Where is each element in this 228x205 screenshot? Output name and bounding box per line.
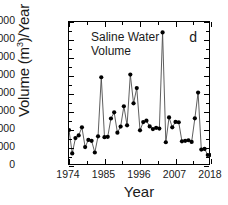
x-minor-tick-mark <box>158 161 159 164</box>
x-minor-tick-mark-top <box>87 22 88 25</box>
y-tick-mark-right <box>204 40 209 41</box>
y-tick-label: 40000 <box>0 87 15 97</box>
y-tick-label: 30000 <box>0 105 15 115</box>
y-tick-label: 60000 <box>0 51 15 61</box>
data-point-marker <box>70 151 74 155</box>
y-minor-tick-mark <box>69 103 72 104</box>
data-point-marker <box>119 124 123 128</box>
data-point-marker <box>109 116 113 120</box>
data-point-marker <box>93 150 97 154</box>
data-point-marker <box>193 116 197 120</box>
series-canvas <box>69 22 209 164</box>
y-minor-tick-mark-right <box>206 139 209 140</box>
y-tick-mark-right <box>204 130 209 131</box>
data-point-marker <box>135 86 139 90</box>
x-tick-label: 2007 <box>155 168 195 180</box>
data-point-marker <box>170 125 174 129</box>
y-tick-label: 50000 <box>0 69 15 79</box>
data-point-marker <box>148 124 152 128</box>
y-minor-tick-mark-right <box>206 157 209 158</box>
y-minor-tick-mark <box>69 121 72 122</box>
data-point-marker <box>115 131 119 135</box>
x-tick-label: 1985 <box>84 168 124 180</box>
data-point-marker <box>106 135 110 139</box>
x-axis-title: Year <box>68 183 210 200</box>
data-point-marker <box>157 126 161 130</box>
x-tick-label: 1974 <box>48 168 88 180</box>
y-tick-label: 10000 <box>0 141 15 151</box>
data-point-marker <box>164 140 168 144</box>
data-point-marker <box>167 115 171 119</box>
x-tick-mark <box>176 159 177 164</box>
x-tick-mark <box>69 159 70 164</box>
y-tick-mark <box>69 130 74 131</box>
y-axis-title-post: )/Year <box>15 4 32 42</box>
data-point-marker <box>177 120 181 124</box>
y-tick-mark-right <box>204 22 209 23</box>
y-tick-label: 0 <box>0 159 15 169</box>
y-minor-tick-mark <box>69 31 72 32</box>
data-point-marker <box>73 136 77 140</box>
y-minor-tick-mark <box>69 67 72 68</box>
data-point-marker <box>99 75 103 79</box>
x-tick-label: 1996 <box>119 168 159 180</box>
y-tick-mark <box>69 166 74 167</box>
x-tick-mark <box>105 159 106 164</box>
y-tick-mark <box>69 40 74 41</box>
y-minor-tick-mark <box>69 85 72 86</box>
y-tick-mark <box>69 58 74 59</box>
series-line <box>69 32 211 155</box>
data-point-marker <box>144 119 148 123</box>
x-minor-tick-mark <box>122 161 123 164</box>
y-axis-title: Volume (m3)/Year <box>15 0 32 136</box>
x-tick-mark-top <box>140 22 141 27</box>
series-svg <box>69 22 211 166</box>
x-tick-mark-top <box>69 22 70 27</box>
data-point-marker <box>80 125 84 129</box>
y-minor-tick-mark <box>69 49 72 50</box>
y-minor-tick-mark <box>69 139 72 140</box>
y-tick-mark-right <box>204 58 209 59</box>
y-minor-tick-mark-right <box>206 49 209 50</box>
y-minor-tick-mark <box>69 157 72 158</box>
data-point-marker <box>112 110 116 114</box>
x-tick-mark <box>140 159 141 164</box>
x-minor-tick-mark <box>87 161 88 164</box>
y-tick-mark <box>69 112 74 113</box>
x-tick-mark <box>211 159 212 164</box>
data-point-marker <box>138 128 142 132</box>
y-tick-label: 20000 <box>0 123 15 133</box>
data-point-marker <box>83 145 87 149</box>
data-point-marker <box>131 101 135 105</box>
data-point-marker <box>196 90 200 94</box>
data-point-marker <box>160 30 164 34</box>
x-tick-mark-top <box>176 22 177 27</box>
x-minor-tick-mark-top <box>122 22 123 25</box>
x-tick-mark-top <box>105 22 106 27</box>
data-point-marker <box>89 139 93 143</box>
y-tick-mark-right <box>204 76 209 77</box>
data-point-marker <box>96 134 100 138</box>
y-minor-tick-mark-right <box>206 31 209 32</box>
y-tick-mark <box>69 94 74 95</box>
y-minor-tick-mark-right <box>206 121 209 122</box>
y-tick-mark <box>69 76 74 77</box>
y-tick-mark-right <box>204 112 209 113</box>
y-tick-mark-right <box>204 148 209 149</box>
plot-area: Saline Water Volume d <box>68 21 210 165</box>
data-point-marker <box>77 133 81 137</box>
y-axis-title-pre: Volume (m <box>15 47 32 117</box>
data-point-marker <box>190 140 194 144</box>
y-minor-tick-mark-right <box>206 67 209 68</box>
x-minor-tick-mark-top <box>193 22 194 25</box>
data-point-marker <box>128 72 132 76</box>
x-minor-tick-mark <box>193 161 194 164</box>
y-tick-mark-right <box>204 166 209 167</box>
x-minor-tick-mark-top <box>158 22 159 25</box>
data-point-marker <box>122 104 126 108</box>
y-tick-mark <box>69 148 74 149</box>
x-tick-label: 2018 <box>190 168 228 180</box>
chart-figure: Volume (m3)/Year 01000020000300004000050… <box>0 0 228 205</box>
x-tick-mark-top <box>211 22 212 27</box>
y-tick-mark-right <box>204 94 209 95</box>
